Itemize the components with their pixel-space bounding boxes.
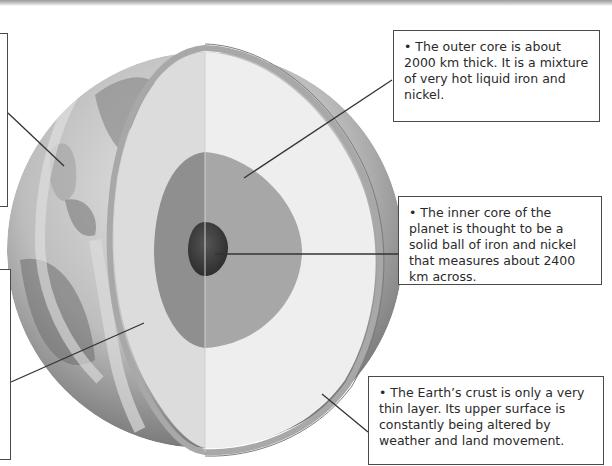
callout-inner-core-text: • The inner core of the planet is though… <box>409 205 591 285</box>
callout-crust: • The Earth’s crust is only a very thin … <box>368 376 604 465</box>
callout-crust-text: • The Earth’s crust is only a very thin … <box>379 385 593 449</box>
callout-outer-core: • The outer core is about 2000 km thick.… <box>393 30 600 122</box>
callout-left-bottom-partial <box>0 269 11 460</box>
callout-left-top-partial <box>0 33 8 207</box>
leader-line-crust <box>322 394 368 432</box>
callout-outer-core-text: • The outer core is about 2000 km thick.… <box>404 39 589 103</box>
callout-inner-core: • The inner core of the planet is though… <box>398 196 602 285</box>
